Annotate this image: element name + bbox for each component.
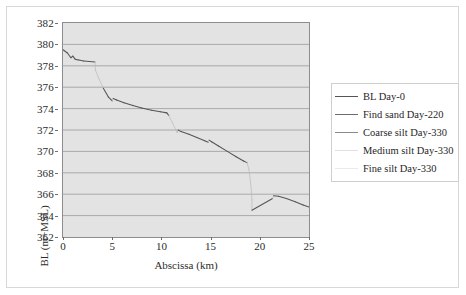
x-tick-label: 5: [109, 240, 115, 252]
legend-item[interactable]: Fine silt Day-330: [332, 159, 458, 177]
legend-swatch-line-icon: [335, 96, 358, 97]
y-tick-label: 372: [37, 124, 54, 136]
data-line-segment: [124, 103, 133, 106]
data-line-segment: [63, 50, 67, 53]
y-tick-mark: [55, 216, 58, 217]
x-tick-mark: [260, 237, 261, 240]
y-tick-mark: [55, 109, 58, 110]
legend-item[interactable]: Medium silt Day-330: [332, 141, 458, 159]
x-tick-label: 15: [205, 240, 216, 252]
data-line-segment: [189, 134, 197, 137]
x-tick-mark: [161, 237, 162, 240]
y-tick-label: 364: [37, 210, 54, 222]
x-tick-label: 10: [156, 240, 167, 252]
legend-item-label: BL Day-0: [363, 91, 405, 102]
data-line-segment: [117, 100, 124, 103]
y-tick-mark: [55, 237, 58, 238]
data-line-segment: [212, 142, 219, 146]
data-line-segment: [274, 196, 279, 197]
data-line-segment: [295, 202, 303, 205]
data-line-segment: [218, 146, 227, 151]
x-tick-label: 25: [304, 240, 315, 252]
y-tick-label: 380: [37, 38, 54, 50]
data-line-segment: [279, 196, 287, 198]
y-tick-label: 374: [37, 103, 54, 115]
chart-figure: 382380378376374372370368366364362 BL (m+…: [0, 0, 466, 295]
legend-item[interactable]: Find sand Day-220: [332, 105, 458, 123]
y-tick-mark: [55, 23, 58, 24]
data-line-segment: [67, 53, 70, 58]
data-line-segment: [79, 60, 84, 61]
y-tick-mark: [55, 87, 58, 88]
x-tick-mark: [112, 237, 113, 240]
data-line-segment: [303, 205, 309, 207]
legend-item-label: Medium silt Day-330: [363, 145, 453, 156]
legend-swatch-line-icon: [335, 114, 358, 115]
data-line-segment: [227, 151, 236, 156]
y-tick-label: 376: [37, 81, 54, 93]
data-line-segment: [160, 112, 166, 113]
data-line-segment: [90, 62, 95, 63]
legend-item-label: Fine silt Day-330: [363, 163, 437, 174]
data-line-segment: [205, 141, 208, 143]
legend-item[interactable]: BL Day-0: [332, 87, 458, 105]
y-axis-ticks: 382380378376374372370368366364362: [20, 22, 58, 238]
legend-item-label: Find sand Day-220: [363, 109, 444, 120]
plot-area: [62, 22, 310, 238]
legend-swatch-line-icon: [335, 132, 358, 133]
y-tick-mark: [55, 194, 58, 195]
x-tick-mark: [211, 237, 212, 240]
x-axis-title: Abscissa (km): [62, 259, 310, 271]
data-line-segment: [95, 70, 98, 77]
y-tick-mark: [55, 151, 58, 152]
y-tick-mark: [55, 44, 58, 45]
data-line-segment: [286, 198, 295, 201]
data-line-segment: [181, 132, 189, 135]
y-tick-label: 366: [37, 188, 54, 200]
y-tick-label: 382: [37, 17, 54, 29]
data-line-segment: [250, 181, 251, 192]
legend-item[interactable]: Coarse silt Day-330: [332, 123, 458, 141]
data-line-segment: [167, 113, 169, 116]
data-line-segment: [152, 110, 161, 112]
plot-canvas: [63, 23, 309, 237]
data-line-segment: [252, 198, 273, 210]
gridlines: [63, 44, 309, 215]
data-line-segment: [108, 97, 112, 101]
data-line-segment: [98, 78, 103, 89]
x-tick-mark: [309, 237, 310, 240]
data-line-segment: [197, 137, 205, 140]
data-line-segment: [103, 88, 108, 97]
legend-swatch-line-icon: [335, 168, 358, 169]
data-line-segment: [249, 170, 250, 182]
y-tick-label: 378: [37, 60, 54, 72]
y-tick-mark: [55, 130, 58, 131]
legend-item-label: Coarse silt Day-330: [363, 127, 447, 138]
y-tick-label: 368: [37, 167, 54, 179]
y-tick-mark: [55, 66, 58, 67]
data-line-segment: [113, 98, 116, 100]
y-tick-mark: [55, 173, 58, 174]
data-line-segment: [73, 56, 75, 59]
data-line-segment: [172, 123, 175, 130]
x-axis-ticks: 0510152025: [62, 240, 310, 256]
y-tick-label: 362: [37, 231, 54, 243]
chart-legend: BL Day-0Find sand Day-220Coarse silt Day…: [331, 83, 459, 182]
data-line-segment: [247, 163, 249, 170]
x-tick-label: 20: [254, 240, 265, 252]
data-line-segment: [236, 157, 243, 161]
data-line-segment: [169, 116, 172, 123]
y-tick-label: 370: [37, 145, 54, 157]
data-line-segment: [133, 105, 142, 108]
data-line-segment: [244, 161, 247, 163]
data-line-segment: [84, 61, 90, 62]
x-tick-label: 0: [60, 240, 66, 252]
x-tick-mark: [63, 237, 64, 240]
legend-swatch-line-icon: [335, 150, 358, 151]
